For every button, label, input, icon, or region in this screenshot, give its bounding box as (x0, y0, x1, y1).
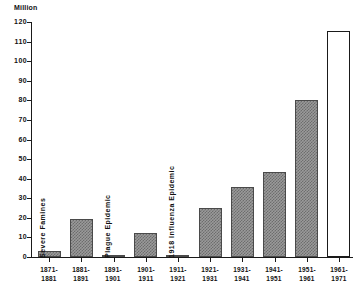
x-axis-category-label-line: 1951 (258, 275, 290, 284)
y-axis-tick-mark (27, 198, 32, 199)
bar-annotation: Plague Epidemic (104, 194, 111, 258)
bar-annotation: Severe Famines (39, 198, 46, 258)
y-axis-tick-label: 10 (18, 233, 27, 240)
y-axis-tick-mark (27, 218, 32, 219)
y-axis-tick-label: 60 (18, 136, 27, 143)
x-axis-category-label-line: 1911- (162, 266, 194, 275)
x-axis-line (31, 257, 353, 258)
x-axis-category-label-line: 1911 (130, 275, 162, 284)
y-axis-unit-label: Million (14, 4, 38, 11)
x-axis-tick-mark (146, 258, 147, 262)
y-axis-tick-mark (27, 61, 32, 62)
x-axis-category-label-line: 1931 (194, 275, 226, 284)
y-axis-tick-label: 40 (18, 175, 27, 182)
y-axis-tick-mark (27, 159, 32, 160)
x-axis-category-label: 1871-1881 (33, 266, 65, 283)
x-axis-category-label-line: 1881 (33, 275, 65, 284)
x-axis-category-label: 1941-1951 (258, 266, 290, 283)
x-axis-category-label: 1951-1961 (291, 266, 323, 283)
y-axis-tick-mark (27, 22, 32, 23)
x-axis-category-label-line: 1961- (323, 266, 355, 275)
x-axis-category-label-line: 1931- (226, 266, 258, 275)
y-axis-tick-label: 20 (18, 214, 27, 221)
bar (231, 187, 254, 258)
x-axis-category-label-line: 1971 (323, 275, 355, 284)
x-axis-category-label-line: 1901- (130, 266, 162, 275)
y-axis-tick-label: 100 (14, 57, 27, 64)
y-axis-tick-mark (27, 42, 32, 43)
bar (70, 219, 93, 257)
bar-annotation: 1918 Influenza Epidemic (168, 166, 175, 258)
plot-area: 1201101009080706050403020100 Severe Fami… (31, 22, 353, 258)
bar (199, 208, 222, 257)
x-axis-category-label: 1901-1911 (130, 266, 162, 283)
y-axis-tick-mark (27, 120, 32, 121)
bar (134, 233, 157, 257)
y-axis-tick-label: 80 (18, 96, 27, 103)
y-axis-tick-label: 110 (15, 38, 28, 45)
x-axis-tick-mark (81, 258, 82, 262)
x-axis-tick-mark (210, 258, 211, 262)
x-axis-category-label: 1961-1971 (323, 266, 355, 283)
y-axis-tick-label: 0 (23, 253, 27, 260)
y-axis-tick-label: 90 (18, 77, 27, 84)
y-axis-tick-label: 30 (18, 194, 27, 201)
y-axis-tick-mark (27, 100, 32, 101)
x-axis-category-label: 1881-1891 (65, 266, 97, 283)
x-axis-category-label-line: 1871- (33, 266, 65, 275)
bar (263, 172, 286, 257)
x-axis-category-label: 1911-1921 (162, 266, 194, 283)
y-axis-tick-mark (27, 237, 32, 238)
y-axis-tick-mark (27, 81, 32, 82)
x-axis-tick-mark (242, 258, 243, 262)
y-axis-tick-mark (27, 257, 32, 258)
y-axis-tick-label: 120 (14, 18, 27, 25)
x-axis-category-label-line: 1951- (291, 266, 323, 275)
bar (295, 100, 318, 257)
x-axis-category-label-line: 1961 (291, 275, 323, 284)
x-axis-tick-mark (339, 258, 340, 262)
x-axis-tick-mark (178, 258, 179, 262)
x-axis-category-label: 1931-1941 (226, 266, 258, 283)
x-axis-tick-mark (307, 258, 308, 262)
x-axis-category-label: 1891-1901 (97, 266, 129, 283)
x-axis-category-label-line: 1921- (194, 266, 226, 275)
x-axis-category-label-line: 1891 (65, 275, 97, 284)
y-axis-tick-label: 50 (18, 155, 27, 162)
x-axis-category-label-line: 1941- (258, 266, 290, 275)
y-axis-tick-mark (27, 179, 32, 180)
x-axis-category-label-line: 1921 (162, 275, 194, 284)
x-axis-tick-mark (114, 258, 115, 262)
y-axis-tick-mark (27, 140, 32, 141)
x-axis-tick-mark (275, 258, 276, 262)
x-axis-category-label-line: 1881- (65, 266, 97, 275)
bar (327, 31, 350, 257)
x-axis-category-label-line: 1891- (97, 266, 129, 275)
bar-chart: Million 1201101009080706050403020100 Sev… (0, 0, 361, 298)
x-axis-category-label-line: 1941 (226, 275, 258, 284)
x-axis-category-label-line: 1901 (97, 275, 129, 284)
x-axis-category-label: 1921-1931 (194, 266, 226, 283)
x-axis-tick-mark (49, 258, 50, 262)
y-axis-tick-label: 70 (18, 116, 27, 123)
